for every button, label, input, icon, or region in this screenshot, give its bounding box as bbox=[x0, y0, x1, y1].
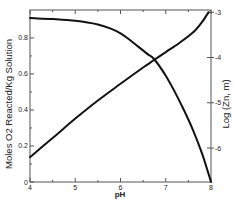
series-group bbox=[30, 12, 211, 182]
series-moles-o2-line bbox=[30, 18, 211, 182]
y-tick-label-left: 0.4 bbox=[18, 106, 28, 113]
ticks-group: 4567800.20.40.60.8-3-4-5-6 bbox=[18, 9, 221, 191]
y-tick-label-left: 0 bbox=[24, 179, 28, 186]
y-tick-label-right: -6 bbox=[215, 145, 221, 152]
y-axis-label-left: Moles O2 Reacted/Kg Solution bbox=[3, 39, 14, 169]
plot-frame-group bbox=[30, 10, 211, 182]
y-tick-label-right: -4 bbox=[215, 54, 221, 61]
x-tick-label: 8 bbox=[209, 184, 213, 191]
x-tick-label: 7 bbox=[164, 184, 168, 191]
y-tick-label-left: 0.2 bbox=[18, 142, 28, 149]
x-axis-label: pH bbox=[115, 190, 126, 199]
y-tick-label-left: 0.8 bbox=[18, 34, 28, 41]
y-axis-label-right: Log (Zn, m) bbox=[220, 79, 231, 128]
chart: 4567800.20.40.60.8-3-4-5-6 Moles O2 Reac… bbox=[0, 0, 234, 211]
plot-frame bbox=[30, 10, 211, 182]
x-tick-label: 5 bbox=[73, 184, 77, 191]
x-tick-label: 4 bbox=[28, 184, 32, 191]
y-tick-label-left: 0.6 bbox=[18, 70, 28, 77]
series-log-zn-line bbox=[30, 12, 209, 157]
y-tick-label-right: -3 bbox=[215, 9, 221, 16]
